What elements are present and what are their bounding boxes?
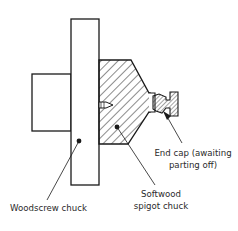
- lathe-chuck-diagram: [0, 0, 238, 231]
- leader-line-spigot: [117, 127, 155, 185]
- chuck-boss: [32, 74, 71, 131]
- label-spigot-chuck: Softwood spigot chuck: [130, 188, 192, 212]
- label-woodscrew-chuck: Woodscrew chuck: [10, 202, 87, 214]
- woodscrew-chuck: [32, 19, 99, 185]
- end-cap-body: [153, 92, 178, 116]
- chuck-faceplate: [71, 19, 99, 185]
- label-spigot-line1: Softwood: [130, 188, 192, 200]
- label-end-cap: End cap (awaiting parting off): [152, 147, 234, 171]
- label-endcap-line2: parting off): [152, 159, 234, 171]
- softwood-spigot-chuck: [99, 60, 155, 144]
- label-endcap-line1: End cap (awaiting: [152, 147, 234, 159]
- end-cap: [153, 92, 178, 116]
- label-spigot-line2: spigot chuck: [130, 200, 192, 212]
